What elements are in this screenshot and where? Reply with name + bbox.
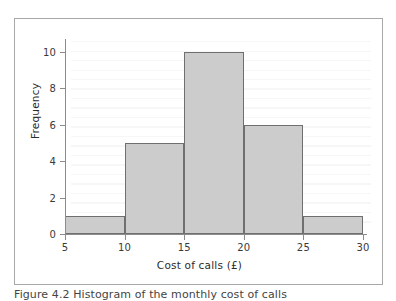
figure-caption: Figure 4.2 Histogram of the monthly cost… (14, 288, 384, 301)
x-tick-mark (65, 234, 66, 240)
x-axis-line (61, 234, 367, 235)
y-tick-label: 0 (30, 229, 56, 240)
y-tick-mark (60, 198, 66, 199)
x-tick-mark (125, 234, 126, 240)
x-tick-label: 30 (348, 242, 378, 253)
x-tick-mark (363, 234, 364, 240)
y-tick-mark (60, 161, 66, 162)
x-tick-label: 25 (288, 242, 318, 253)
x-tick-mark (184, 234, 185, 240)
histogram-bar (125, 143, 185, 234)
histogram-plot-area: 0246810 51015202530 Cost of calls (£) Fr… (15, 19, 384, 286)
x-tick-mark (303, 234, 304, 240)
x-tick-label: 20 (229, 242, 259, 253)
y-tick-mark (60, 88, 66, 89)
figure-frame: 0246810 51015202530 Cost of calls (£) Fr… (14, 18, 383, 285)
y-tick-mark (60, 125, 66, 126)
y-tick-label: 10 (30, 46, 56, 57)
x-tick-mark (244, 234, 245, 240)
x-tick-label: 5 (50, 242, 80, 253)
x-tick-label: 10 (110, 242, 140, 253)
x-tick-label: 15 (169, 242, 199, 253)
histogram-bar (65, 216, 125, 234)
y-tick-mark (60, 52, 66, 53)
histogram-bar (303, 216, 363, 234)
y-tick-label: 2 (30, 192, 56, 203)
y-axis-line (65, 39, 66, 235)
histogram-bar (244, 125, 304, 234)
x-axis-title: Cost of calls (£) (15, 259, 384, 271)
y-axis-title: Frequency (29, 83, 41, 139)
histogram-bar (184, 52, 244, 234)
y-tick-label: 4 (30, 156, 56, 167)
